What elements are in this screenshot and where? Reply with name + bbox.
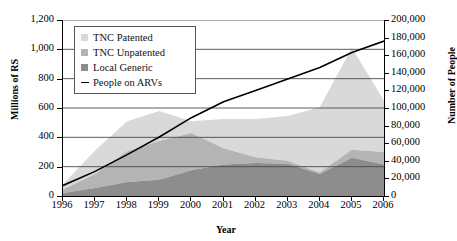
chart-legend: TNC PatentedTNC UnpatentedLocal GenericP… bbox=[74, 26, 196, 94]
y-tick-label: 600 bbox=[8, 102, 54, 113]
legend-item: Local Generic bbox=[81, 60, 191, 75]
legend-item-label: TNC Unpatented bbox=[93, 47, 165, 58]
y2-tick-label: 100,000 bbox=[391, 102, 451, 113]
legend-swatch-icon bbox=[81, 64, 88, 71]
y-tick-label: 1,200 bbox=[8, 14, 54, 25]
x-tick-mark bbox=[126, 197, 127, 201]
y2-tick-label: 20,000 bbox=[391, 172, 451, 183]
y2-tick-label: 120,000 bbox=[391, 84, 451, 95]
legend-item-label: TNC Patented bbox=[93, 32, 153, 43]
y2-tick-label: 40,000 bbox=[391, 155, 451, 166]
legend-item-label: Local Generic bbox=[93, 62, 153, 73]
y2-tick-label: 200,000 bbox=[391, 14, 451, 25]
y2-tick-label: 180,000 bbox=[391, 32, 451, 43]
x-tick-mark bbox=[190, 197, 191, 201]
x-tick-mark bbox=[319, 197, 320, 201]
y2-tick-label: 0 bbox=[391, 190, 451, 201]
y-tick-label: 200 bbox=[8, 161, 54, 172]
x-tick-mark bbox=[287, 197, 288, 201]
x-tick-mark bbox=[255, 197, 256, 201]
legend-line-icon bbox=[81, 82, 89, 83]
y-tick-label: 400 bbox=[8, 131, 54, 142]
y2-tick-label: 80,000 bbox=[391, 120, 451, 131]
legend-swatch-icon bbox=[81, 34, 88, 41]
x-tick-mark bbox=[351, 197, 352, 201]
y-tick-label: 800 bbox=[8, 73, 54, 84]
x-tick-mark bbox=[94, 197, 95, 201]
y-tick-label: 1,000 bbox=[8, 43, 54, 54]
x-tick-mark bbox=[158, 197, 159, 201]
x-tick-mark bbox=[62, 197, 63, 201]
y-axis-title-left: Millions of RS bbox=[9, 45, 20, 135]
y2-tick-label: 60,000 bbox=[391, 137, 451, 148]
x-tick-label: 2006 bbox=[363, 200, 403, 211]
x-tick-mark bbox=[383, 197, 384, 201]
legend-item: TNC Unpatented bbox=[81, 45, 191, 60]
legend-item-label: People on ARVs bbox=[93, 77, 162, 88]
legend-swatch-icon bbox=[81, 49, 88, 56]
y2-tick-label: 140,000 bbox=[391, 67, 451, 78]
x-axis-title: Year bbox=[0, 224, 452, 235]
legend-item: TNC Patented bbox=[81, 30, 191, 45]
y-tick-label: 0 bbox=[8, 190, 54, 201]
legend-item: People on ARVs bbox=[81, 75, 191, 90]
x-tick-mark bbox=[223, 197, 224, 201]
y2-tick-label: 160,000 bbox=[391, 49, 451, 60]
